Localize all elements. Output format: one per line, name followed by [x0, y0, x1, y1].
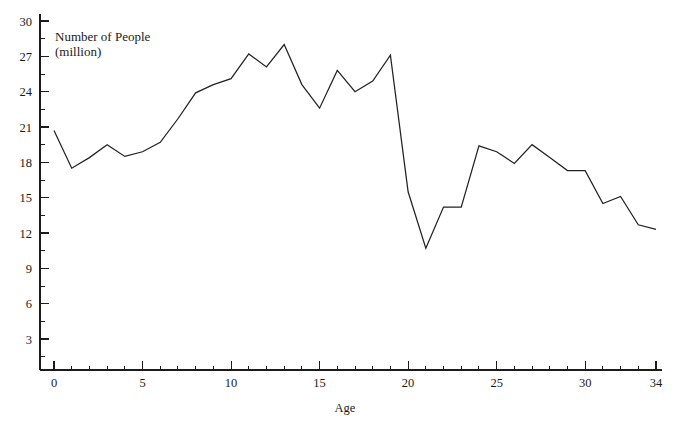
y-tick-label-9: 9 — [26, 262, 32, 276]
x-tick-label-30: 30 — [579, 376, 592, 390]
line-chart-canvas: 36912151821242730 05101520253034 Number … — [0, 0, 675, 429]
y-tick-label-30: 30 — [20, 15, 33, 29]
x-tick-label-10: 10 — [225, 376, 238, 390]
y-axis-tick-labels: 36912151821242730 — [20, 15, 33, 347]
x-tick-label-20: 20 — [402, 376, 415, 390]
x-tick-label-5: 5 — [139, 376, 145, 390]
data-series-line — [54, 45, 656, 249]
series-caption-line-2: (million) — [55, 44, 101, 59]
y-tick-label-6: 6 — [26, 297, 32, 311]
y-tick-label-21: 21 — [20, 121, 33, 135]
x-tick-label-25: 25 — [490, 376, 503, 390]
y-tick-label-15: 15 — [20, 191, 33, 205]
x-tick-label-0: 0 — [51, 376, 57, 390]
series-caption-line-1: Number of People — [55, 29, 151, 44]
x-axis-tick-labels: 05101520253034 — [51, 376, 663, 390]
y-tick-label-27: 27 — [20, 50, 33, 64]
x-tick-label-15: 15 — [313, 376, 326, 390]
x-axis — [40, 361, 662, 370]
y-tick-label-12: 12 — [20, 227, 33, 241]
x-axis-title: Age — [335, 401, 356, 415]
y-tick-label-3: 3 — [26, 333, 32, 347]
y-tick-label-18: 18 — [20, 156, 33, 170]
x-tick-label-34: 34 — [650, 376, 663, 390]
chart-figure: 36912151821242730 05101520253034 Number … — [0, 0, 675, 429]
y-axis — [40, 14, 49, 370]
y-tick-label-24: 24 — [20, 85, 33, 99]
